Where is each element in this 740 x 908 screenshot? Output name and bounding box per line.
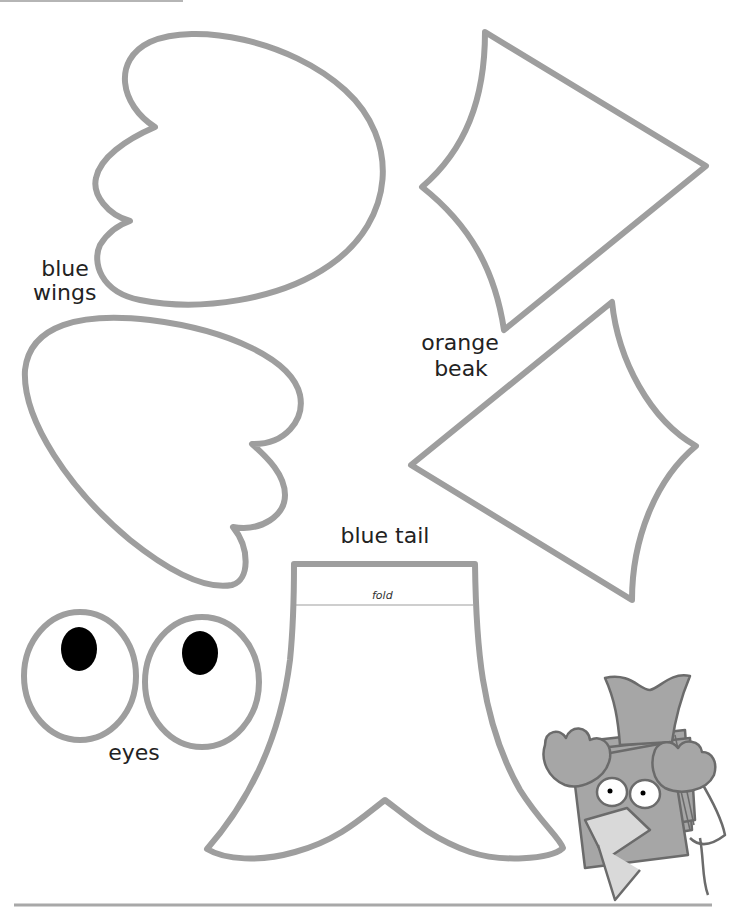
upper-beak-cutout [422,32,706,330]
upper-wing-cutout [95,34,382,305]
tail-cutout [207,564,563,858]
wings-label-line1: blue [40,257,90,281]
wings-label-line2: wings [33,281,95,305]
fold-label: fold [372,589,393,602]
beak-label-line1: orange [418,331,502,355]
beak-label-line2: beak [430,357,492,381]
left-eye-cutout [24,612,136,740]
template-canvas [0,0,740,908]
right-pupil [182,631,218,675]
tail-label: blue tail [336,524,434,548]
left-pupil [61,627,97,671]
eyes-label: eyes [108,741,160,765]
bird-puppet-illustration [544,675,725,900]
lower-wing-cutout [25,318,301,586]
right-eye-cutout [145,617,259,747]
